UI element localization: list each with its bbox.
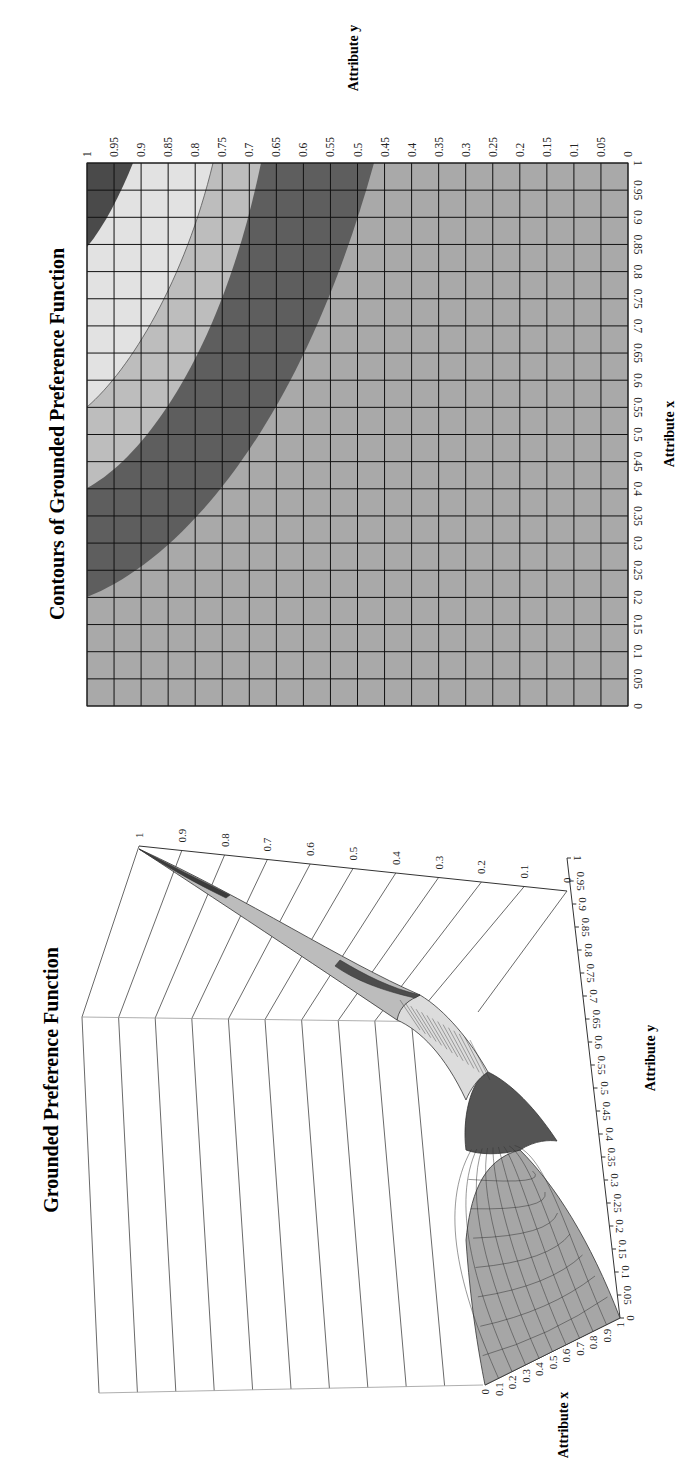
- z-tick: 0.7: [261, 837, 273, 851]
- x-tick: 0.1: [493, 1382, 505, 1396]
- x-tick: 0.6: [560, 1348, 572, 1362]
- z-tick: 0.3: [433, 855, 445, 869]
- x-tick: 0.2: [506, 1376, 518, 1390]
- z-axis-ticks: 10.90.80.70.60.50.40.30.20.10: [133, 828, 573, 883]
- z-tick: 1: [133, 833, 145, 839]
- y-tick: 0.3: [609, 1173, 621, 1187]
- x-tick: 0: [479, 1389, 491, 1395]
- y-tick: 0.35: [606, 1147, 618, 1167]
- y-tick: 0.5: [599, 1081, 611, 1095]
- y-tick: 0.95: [575, 871, 587, 891]
- z-tick: 0.1: [518, 865, 530, 879]
- x-tick: 0.7: [574, 1342, 586, 1356]
- y-tick: 0.9: [577, 897, 589, 911]
- y-tick: 0.65: [591, 1009, 603, 1029]
- surface-xlabel: Attribute x: [556, 1392, 571, 1459]
- surface-band-2: [465, 1072, 557, 1154]
- y-tick: 0.85: [580, 917, 592, 937]
- surface-ylabel: Attribute y: [643, 1025, 658, 1092]
- y-tick: 0.4: [604, 1127, 616, 1141]
- y-tick: 0.2: [614, 1219, 626, 1233]
- y-tick: 1: [572, 855, 584, 861]
- z-tick: 0.5: [347, 846, 359, 860]
- z-tick: 0.4: [390, 851, 402, 865]
- x-tick: 0.4: [533, 1362, 545, 1376]
- y-tick: 0.8: [583, 943, 595, 957]
- x-tick: 1: [614, 1322, 626, 1328]
- y-tick: 0.1: [620, 1265, 632, 1279]
- y-tick: 0.15: [617, 1239, 629, 1259]
- y-tick: 0.25: [612, 1193, 624, 1213]
- x-tick: 0.9: [601, 1328, 613, 1342]
- y-tick: 0: [625, 1315, 637, 1321]
- surface-mesh: [139, 849, 620, 1385]
- y-tick: 0.55: [596, 1055, 608, 1075]
- z-tick: 0.2: [475, 860, 487, 874]
- y-tick: 0.7: [588, 989, 600, 1003]
- y-tick: 0.05: [622, 1285, 634, 1305]
- y-tick: 0.75: [585, 963, 597, 983]
- z-tick: 0.6: [304, 842, 316, 856]
- z-tick: 0.9: [176, 828, 188, 842]
- surface-chart: 10.90.80.70.60.50.40.30.20.10 10.950.90.…: [0, 0, 696, 1467]
- surface-title: Grounded Preference Function: [40, 947, 62, 1213]
- x-tick: 0.5: [547, 1355, 559, 1369]
- z-tick: 0.8: [219, 833, 231, 847]
- z-tick: 0: [561, 877, 573, 883]
- y-tick: 0.45: [601, 1101, 613, 1121]
- y-tick: 0.6: [593, 1035, 605, 1049]
- x-tick: 0.8: [587, 1335, 599, 1349]
- x-tick: 0.3: [520, 1368, 532, 1382]
